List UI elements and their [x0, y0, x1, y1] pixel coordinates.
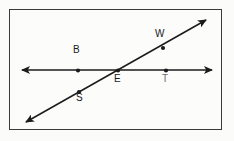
- point-w-label: W: [155, 29, 164, 39]
- point-e-label: E: [114, 74, 121, 84]
- point-b-label: B: [73, 45, 80, 55]
- point-w-dot: [161, 46, 165, 50]
- diagram-page: B E T W S: [0, 0, 234, 141]
- point-e-dot: [116, 68, 120, 72]
- point-t-label: T: [162, 74, 168, 84]
- point-s-label: S: [76, 93, 83, 103]
- point-b-dot: [76, 68, 80, 72]
- geometry-figure: [0, 0, 234, 141]
- point-t-dot: [164, 68, 168, 72]
